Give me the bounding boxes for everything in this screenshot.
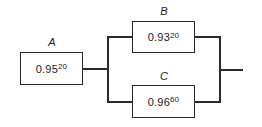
block-c: 0.9660: [132, 85, 195, 118]
block-a: 0.9520: [20, 52, 83, 85]
block-b-label: B: [154, 5, 174, 17]
block-b: 0.9320: [132, 21, 195, 53]
block-a-exponent: 20: [58, 62, 67, 71]
block-c-base: 0.96: [148, 96, 170, 108]
block-a-base: 0.95: [36, 63, 58, 75]
block-b-base: 0.93: [148, 31, 170, 43]
block-b-exponent: 20: [170, 31, 179, 40]
block-c-exponent: 60: [170, 95, 179, 104]
block-c-label: C: [154, 70, 174, 82]
block-a-label: A: [42, 36, 62, 48]
